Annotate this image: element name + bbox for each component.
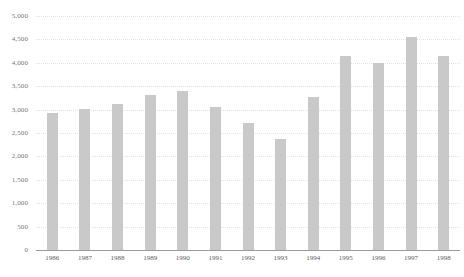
y-tick-label: 2,000 <box>12 152 28 160</box>
x-tick-label: 1992 <box>241 254 255 262</box>
y-tick-label: 5,000 <box>12 12 28 20</box>
y-tick-label: 3,000 <box>12 106 28 114</box>
y-tick-label: 500 <box>17 223 28 231</box>
y-tick-label: 2,500 <box>12 129 28 137</box>
bar-chart: 05001,0001,5002,0002,5003,0003,5004,0004… <box>0 0 464 277</box>
bar <box>112 104 123 250</box>
bar <box>243 123 254 250</box>
bars-layer <box>36 16 460 250</box>
x-tick-label: 1987 <box>78 254 92 262</box>
x-tick-label: 1998 <box>437 254 451 262</box>
x-tick-label: 1991 <box>208 254 222 262</box>
bar <box>308 97 319 251</box>
bar <box>373 63 384 250</box>
y-tick-label: 4,000 <box>12 59 28 67</box>
x-tick-label: 1997 <box>404 254 418 262</box>
x-tick-label: 1993 <box>274 254 288 262</box>
bar <box>438 56 449 250</box>
bar <box>340 56 351 250</box>
x-tick-label: 1990 <box>176 254 190 262</box>
x-tick-label: 1996 <box>371 254 385 262</box>
x-axis-labels: 1986198719881989199019911992199319941995… <box>36 252 460 268</box>
bar <box>145 95 156 250</box>
x-tick-label: 1986 <box>45 254 59 262</box>
bar <box>406 37 417 250</box>
y-tick-label: 1,000 <box>12 199 28 207</box>
bar <box>177 91 188 250</box>
x-tick-label: 1988 <box>111 254 125 262</box>
x-tick-label: 1994 <box>306 254 320 262</box>
x-tick-label: 1995 <box>339 254 353 262</box>
axis-baseline <box>36 250 460 251</box>
y-tick-label: 3,500 <box>12 82 28 90</box>
x-tick-label: 1989 <box>143 254 157 262</box>
bar <box>210 107 221 250</box>
bar <box>275 139 286 250</box>
y-tick-label: 1,500 <box>12 176 28 184</box>
y-tick-label: 4,500 <box>12 35 28 43</box>
bar <box>79 109 90 250</box>
y-axis-labels: 05001,0001,5002,0002,5003,0003,5004,0004… <box>0 16 32 250</box>
bar <box>47 113 58 250</box>
y-tick-label: 0 <box>24 246 28 254</box>
